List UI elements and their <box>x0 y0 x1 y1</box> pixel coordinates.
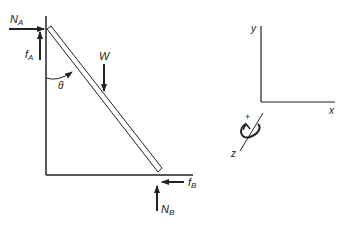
ladder-diagram: NA fA W θ fB NB y x z + <box>0 0 349 226</box>
ladder <box>47 26 162 172</box>
normal-force-b-label: NB <box>161 203 175 217</box>
angle-label: θ <box>58 80 64 91</box>
z-axis-label: z <box>230 148 236 159</box>
friction-force-b-label: fB <box>188 176 197 190</box>
rotation-sign: + <box>245 112 250 122</box>
weight-label: W <box>99 50 111 62</box>
x-axis-label: x <box>328 105 335 116</box>
angle-arc <box>46 72 72 79</box>
y-axis-label: y <box>250 23 257 34</box>
normal-force-a-label: NA <box>10 13 23 27</box>
friction-force-a-label: fA <box>25 48 33 62</box>
coordinate-axes <box>240 26 335 151</box>
